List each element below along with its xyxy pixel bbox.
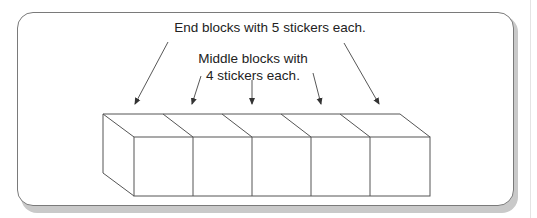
arrow-middle-1 [192,76,201,104]
pointer-arrows [135,42,379,104]
arrow-end-left [135,42,168,104]
blocks-diagram [0,0,537,218]
arrow-end-right [344,43,379,104]
block-row [103,114,430,196]
arrow-middle-3 [313,73,321,104]
